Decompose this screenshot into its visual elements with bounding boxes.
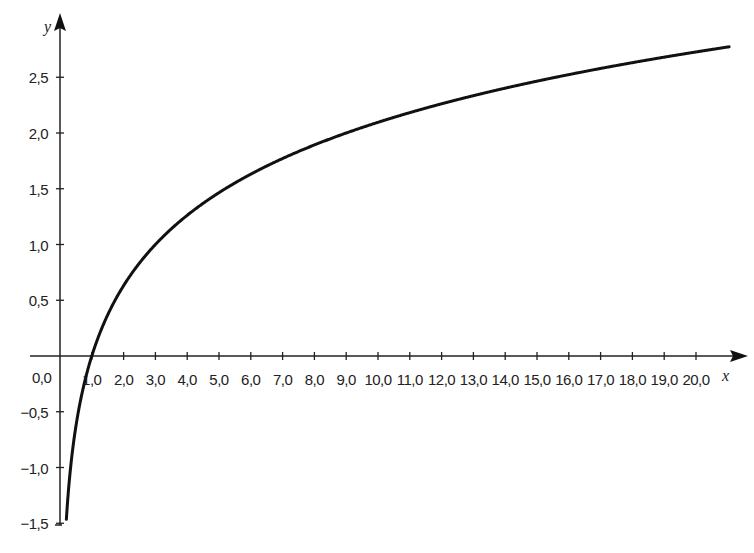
y-tick-label: 1,5: [29, 181, 49, 198]
y-tick-label: 2,5: [29, 69, 49, 86]
x-tick-label: 18,0: [619, 371, 646, 388]
x-tick-label: 10,0: [364, 371, 391, 388]
y-tick-label: −1,0: [20, 460, 48, 477]
y-tick-label: 1,0: [29, 237, 49, 254]
axes: [30, 13, 748, 525]
tick-labels: 1,02,03,04,05,06,07,08,09,010,011,012,01…: [20, 69, 709, 532]
x-tick-label: 3,0: [146, 371, 166, 388]
x-tick-label: 11,0: [397, 371, 423, 388]
y-axis-label: y: [42, 18, 52, 36]
x-tick-label: 2,0: [114, 371, 134, 388]
y-tick-label: 2,0: [29, 125, 49, 142]
y-tick-label: 0,5: [29, 292, 49, 309]
x-tick-label: 4,0: [178, 371, 198, 388]
x-tick-label: 6,0: [241, 371, 261, 388]
function-curve: [66, 47, 729, 520]
x-tick-label: 15,0: [523, 371, 550, 388]
x-tick-label: 7,0: [273, 371, 293, 388]
x-tick-label: 19,0: [651, 371, 678, 388]
log-curve-chart: 1,02,03,04,05,06,07,08,09,010,011,012,01…: [0, 0, 754, 553]
y-tick-label: −1,5: [20, 515, 48, 532]
x-tick-label: 9,0: [337, 371, 357, 388]
x-tick-label: 5,0: [209, 371, 229, 388]
x-axis-label: x: [721, 367, 729, 384]
y-tick-label: −0,5: [20, 404, 48, 421]
x-tick-label: 8,0: [305, 371, 325, 388]
ticks: [56, 77, 696, 523]
x-tick-label: 14,0: [492, 371, 519, 388]
x-tick-label: 20,0: [682, 371, 709, 388]
x-tick-label: 13,0: [460, 371, 487, 388]
x-tick-label: 12,0: [428, 371, 455, 388]
x-tick-label: 16,0: [555, 371, 582, 388]
origin-label: 0,0: [32, 369, 52, 386]
x-tick-label: 17,0: [587, 371, 614, 388]
